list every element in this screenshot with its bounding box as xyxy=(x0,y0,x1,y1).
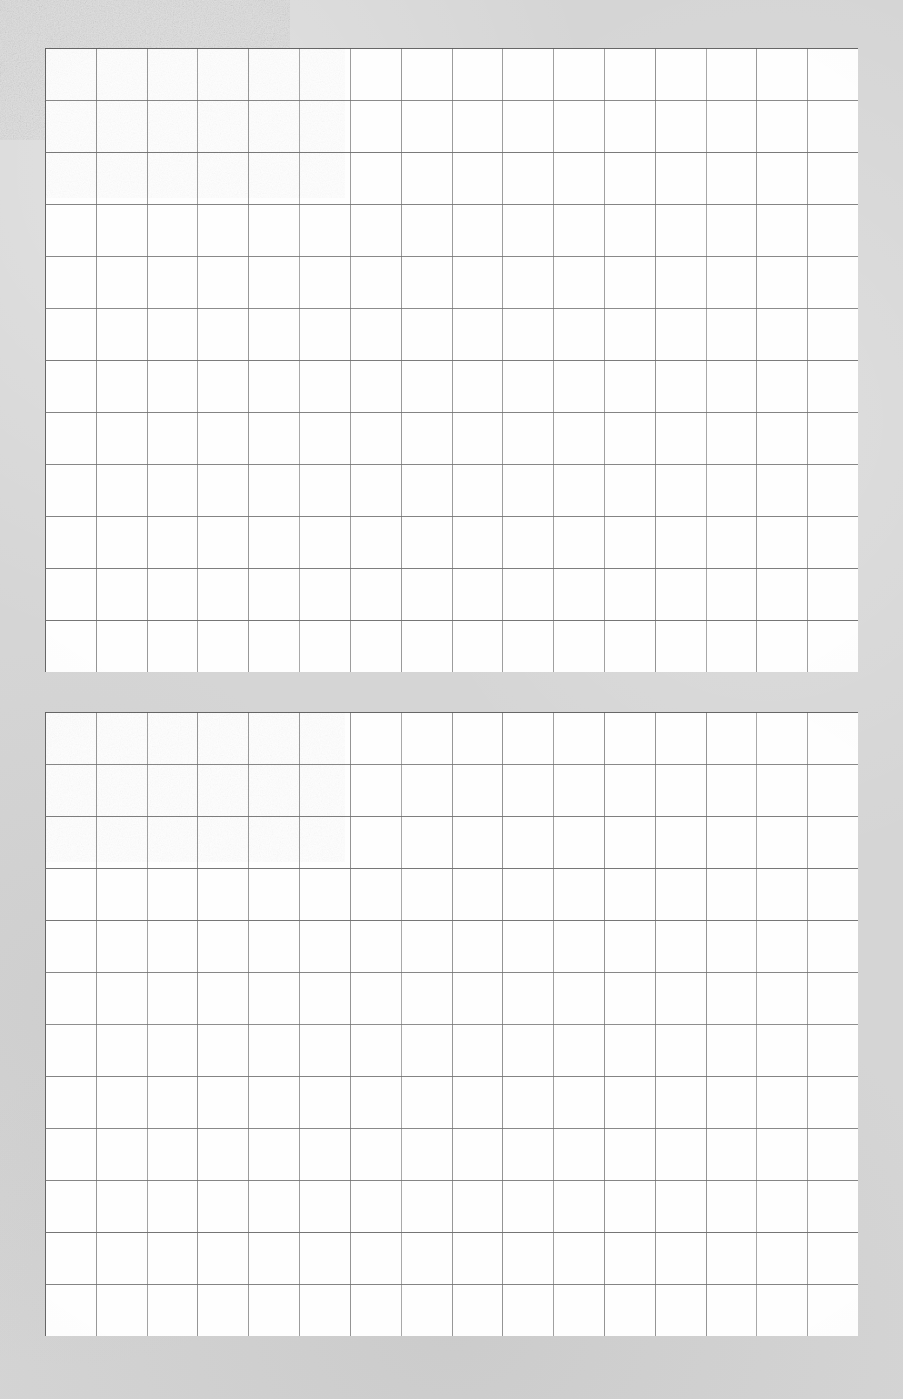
grid-cell[interactable] xyxy=(350,868,401,920)
grid-cell[interactable] xyxy=(756,1284,807,1336)
grid-cell[interactable] xyxy=(299,568,350,620)
grid-cell[interactable] xyxy=(807,868,858,920)
grid-cell[interactable] xyxy=(452,816,503,868)
grid-cell[interactable] xyxy=(756,204,807,256)
grid-cell[interactable] xyxy=(248,972,299,1024)
grid-cell[interactable] xyxy=(807,1180,858,1232)
grid-cell[interactable] xyxy=(807,712,858,764)
grid-cell[interactable] xyxy=(452,920,503,972)
grid-cell[interactable] xyxy=(147,712,198,764)
grid-cell[interactable] xyxy=(452,764,503,816)
grid-cell[interactable] xyxy=(807,1232,858,1284)
grid-cell[interactable] xyxy=(197,1128,248,1180)
grid-cell[interactable] xyxy=(299,1180,350,1232)
grid-cell[interactable] xyxy=(96,568,147,620)
grid-cell[interactable] xyxy=(248,712,299,764)
grid-cell[interactable] xyxy=(248,464,299,516)
grid-cell[interactable] xyxy=(401,1076,452,1128)
grid-cell[interactable] xyxy=(96,620,147,672)
grid-cell[interactable] xyxy=(756,516,807,568)
grid-cell[interactable] xyxy=(299,152,350,204)
grid-cell[interactable] xyxy=(756,1128,807,1180)
grid-cell[interactable] xyxy=(248,412,299,464)
grid-cell[interactable] xyxy=(807,256,858,308)
grid-cell[interactable] xyxy=(502,1284,553,1336)
grid-cell[interactable] xyxy=(553,152,604,204)
grid-cell[interactable] xyxy=(604,516,655,568)
grid-cell[interactable] xyxy=(502,712,553,764)
grid-cell[interactable] xyxy=(655,620,706,672)
grid-cell[interactable] xyxy=(756,1076,807,1128)
grid-cell[interactable] xyxy=(756,620,807,672)
grid-cell[interactable] xyxy=(299,764,350,816)
grid-cell[interactable] xyxy=(401,1024,452,1076)
grid-cell[interactable] xyxy=(553,972,604,1024)
grid-cell[interactable] xyxy=(502,620,553,672)
grid-cell[interactable] xyxy=(553,620,604,672)
grid-block-top[interactable] xyxy=(45,48,858,672)
grid-cell[interactable] xyxy=(147,920,198,972)
grid-cell[interactable] xyxy=(197,1024,248,1076)
grid-cell[interactable] xyxy=(655,920,706,972)
grid-cell[interactable] xyxy=(655,360,706,412)
grid-cell[interactable] xyxy=(147,204,198,256)
grid-cell[interactable] xyxy=(96,100,147,152)
grid-cell[interactable] xyxy=(96,204,147,256)
grid-cell[interactable] xyxy=(706,620,757,672)
grid-cell[interactable] xyxy=(350,1024,401,1076)
grid-cell[interactable] xyxy=(248,764,299,816)
grid-cell[interactable] xyxy=(96,1232,147,1284)
grid-cell[interactable] xyxy=(756,412,807,464)
grid-cell[interactable] xyxy=(401,48,452,100)
grid-cell[interactable] xyxy=(299,256,350,308)
grid-cell[interactable] xyxy=(706,1284,757,1336)
grid-cell[interactable] xyxy=(197,412,248,464)
grid-cell[interactable] xyxy=(553,1284,604,1336)
grid-cell[interactable] xyxy=(248,1024,299,1076)
grid-cell[interactable] xyxy=(502,816,553,868)
grid-cell[interactable] xyxy=(197,1284,248,1336)
grid-cell[interactable] xyxy=(401,1180,452,1232)
grid-cell[interactable] xyxy=(604,1232,655,1284)
grid-cell[interactable] xyxy=(452,1128,503,1180)
grid-cell[interactable] xyxy=(299,816,350,868)
grid-cell[interactable] xyxy=(45,920,96,972)
grid-cell[interactable] xyxy=(655,152,706,204)
grid-cell[interactable] xyxy=(655,1284,706,1336)
grid-cell[interactable] xyxy=(604,1128,655,1180)
grid-cell[interactable] xyxy=(96,152,147,204)
grid-cell[interactable] xyxy=(502,1232,553,1284)
grid-cell[interactable] xyxy=(553,712,604,764)
grid-cell[interactable] xyxy=(655,464,706,516)
grid-cell[interactable] xyxy=(807,1024,858,1076)
grid-cell[interactable] xyxy=(299,1284,350,1336)
grid-cell[interactable] xyxy=(756,568,807,620)
grid-cell[interactable] xyxy=(502,412,553,464)
grid-cell[interactable] xyxy=(248,568,299,620)
grid-cell[interactable] xyxy=(248,308,299,360)
grid-cell[interactable] xyxy=(604,868,655,920)
grid-cell[interactable] xyxy=(553,308,604,360)
grid-cell[interactable] xyxy=(147,764,198,816)
grid-cell[interactable] xyxy=(807,568,858,620)
grid-cell[interactable] xyxy=(96,256,147,308)
grid-cell[interactable] xyxy=(96,972,147,1024)
grid-cell[interactable] xyxy=(553,816,604,868)
grid-cell[interactable] xyxy=(96,308,147,360)
grid-cell[interactable] xyxy=(452,360,503,412)
grid-cell[interactable] xyxy=(401,920,452,972)
grid-cell[interactable] xyxy=(197,100,248,152)
grid-cell[interactable] xyxy=(197,48,248,100)
grid-cell[interactable] xyxy=(299,1128,350,1180)
grid-cell[interactable] xyxy=(197,204,248,256)
grid-cell[interactable] xyxy=(147,1232,198,1284)
grid-cell[interactable] xyxy=(706,920,757,972)
grid-cell[interactable] xyxy=(706,360,757,412)
grid-cell[interactable] xyxy=(197,256,248,308)
grid-cell[interactable] xyxy=(147,1284,198,1336)
grid-cell[interactable] xyxy=(655,972,706,1024)
grid-cell[interactable] xyxy=(147,464,198,516)
grid-cell[interactable] xyxy=(299,920,350,972)
grid-cell[interactable] xyxy=(96,1180,147,1232)
grid-cell[interactable] xyxy=(45,152,96,204)
